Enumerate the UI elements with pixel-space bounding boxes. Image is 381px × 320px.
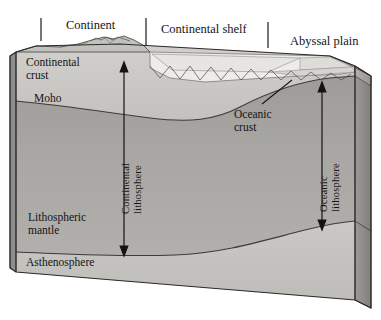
label-continental-lithosphere: Continental lithosphere bbox=[120, 163, 144, 214]
label-lithospheric-mantle: Lithospheric mantle bbox=[28, 211, 86, 237]
label-continent: Continent bbox=[66, 18, 115, 32]
label-asthenosphere: Asthenosphere bbox=[26, 256, 94, 269]
block-diagram-figure: Continent Continental shelf Abyssal plai… bbox=[0, 0, 381, 320]
diagram-canvas bbox=[0, 0, 381, 320]
label-abyssal-plain: Abyssal plain bbox=[290, 34, 358, 48]
label-oceanic-crust: Oceanic crust bbox=[234, 108, 272, 134]
label-continental-shelf: Continental shelf bbox=[161, 22, 247, 36]
label-continental-crust: Continental crust bbox=[26, 56, 80, 82]
block-left-face bbox=[10, 52, 16, 272]
label-moho: Moho bbox=[34, 92, 61, 105]
label-oceanic-lithosphere: Oceanic lithosphere bbox=[318, 163, 342, 212]
ocean-water bbox=[150, 52, 355, 82]
